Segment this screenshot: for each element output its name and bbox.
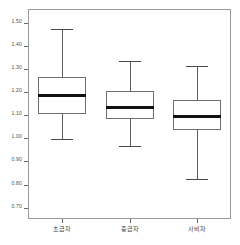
y-tick-mark [24,46,28,47]
median-line [106,106,154,109]
y-tick-mark [24,161,28,162]
boxplot-figure: 1.501.401.301.201.101.000.900.800.70 초급자… [0,0,240,245]
y-tick-mark [24,138,28,139]
median-line [38,94,86,97]
y-tick-label: 0.90 [11,157,22,162]
lower-whisker [130,119,131,147]
y-tick-label: 1.00 [11,134,22,139]
y-tick-label: 0.70 [11,204,22,209]
y-tick-label: 1.10 [11,111,22,116]
upper-whisker-cap [119,61,141,62]
x-tick-mark [130,219,131,223]
y-tick-mark [24,69,28,70]
upper-whisker [62,29,63,77]
y-tick-mark [24,92,28,93]
y-tick-label: 1.30 [11,65,22,70]
lower-whisker [62,114,63,139]
upper-whisker [130,61,131,91]
y-tick-mark [24,208,28,209]
lower-whisker [197,130,198,178]
y-tick-label: 1.50 [11,19,22,24]
lower-whisker-cap [51,139,73,140]
upper-whisker-cap [186,66,208,67]
y-tick-label: 1.40 [11,42,22,47]
x-tick-mark [197,219,198,223]
median-line [173,115,221,118]
lower-whisker-cap [186,179,208,180]
upper-whisker [197,66,198,101]
y-tick-label: 0.80 [11,181,22,186]
upper-whisker-cap [51,29,73,30]
lower-whisker-cap [119,146,141,147]
y-tick-mark [24,23,28,24]
x-tick-label: 초급자 [53,226,71,233]
y-tick-mark [24,185,28,186]
y-tick-label: 1.20 [11,88,22,93]
x-tick-label: 사비자 [188,226,206,233]
y-tick-mark [24,115,28,116]
x-tick-label: 중급자 [121,226,139,233]
x-tick-mark [62,219,63,223]
